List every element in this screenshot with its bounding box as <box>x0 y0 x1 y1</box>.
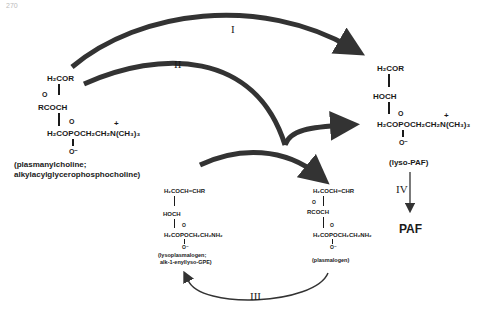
compound-paf: PAF <box>399 222 422 236</box>
bond-line <box>58 84 60 95</box>
formula-charge: + <box>444 112 449 120</box>
formula-line: RCOCH <box>307 209 329 215</box>
formula-line: H₂COPOCH₂CH₂NH₂ <box>313 232 372 238</box>
step-label-ii: II <box>174 58 181 70</box>
formula-oxygen: O <box>182 223 186 228</box>
formula-line: HOCH <box>163 211 181 217</box>
bond-line <box>174 219 175 228</box>
step-label-i: I <box>231 23 235 35</box>
bond-line <box>388 102 390 114</box>
formula-line: H₂COR <box>377 65 404 73</box>
step-label-iv: IV <box>396 183 408 195</box>
bond-line <box>174 196 175 206</box>
bond-line <box>72 139 74 146</box>
formula-oxygen: O <box>398 110 403 117</box>
formula-line: H₂COPOCH₂CH₂NH₂ <box>164 232 223 238</box>
arrow-to-lyso-paf <box>285 125 345 145</box>
formula-line: H₂COPOCH₂CH₂N(CH₃)₃ <box>377 121 470 129</box>
formula-oxygen: O⁻ <box>399 139 408 146</box>
formula-line: HOCH <box>373 93 397 101</box>
formula-oxygen: O <box>42 91 47 98</box>
formula-line: RCOCH <box>38 104 67 112</box>
formula-line: H₂COCH=CHR <box>164 188 205 194</box>
formula-oxygen: O <box>312 200 316 205</box>
formula-oxygen: O⁻ <box>69 148 78 155</box>
arrow-to-plasmalogen <box>200 152 318 175</box>
formula-line: H₂COR <box>47 75 74 83</box>
compound-name: (plasmanylcholine; <box>14 160 86 169</box>
step-label-iii: III <box>250 290 261 302</box>
bond-line <box>58 113 60 126</box>
formula-oxygen: O <box>69 118 74 125</box>
formula-line: H₂COPOCH₂CH₂N(CH₃)₃ <box>47 130 140 138</box>
formula-oxygen: O⁻ <box>330 245 337 250</box>
formula-oxygen: O <box>330 223 334 228</box>
bond-line <box>402 130 404 137</box>
compound-name: (lysoplasmalogen; <box>158 252 206 258</box>
compound-name: alk-1-enyllyso-GPE) <box>160 259 212 265</box>
formula-line: H₂COCH=CHR <box>313 188 354 194</box>
bond-line <box>323 217 324 228</box>
arrow-step-i <box>72 15 352 67</box>
bond-line <box>388 74 390 87</box>
compound-name: alkylacylglycerophosphocholine) <box>14 170 140 179</box>
compound-name: (plasmalogen) <box>312 257 349 263</box>
formula-oxygen: O⁻ <box>182 245 189 250</box>
formula-charge: + <box>114 120 119 128</box>
bond-line <box>323 196 324 206</box>
compound-name: (lyso-PAF) <box>389 158 428 167</box>
